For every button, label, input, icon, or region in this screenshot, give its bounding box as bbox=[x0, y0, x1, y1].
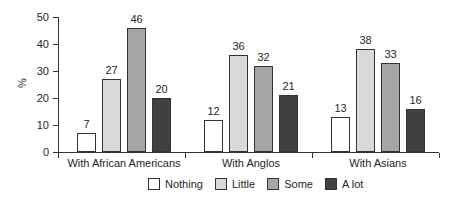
bar-value-label: 13 bbox=[325, 102, 356, 115]
bar-value-label: 32 bbox=[248, 51, 279, 64]
bar-chart: % 01020304050 72746201236322113383316 Wi… bbox=[0, 0, 462, 207]
bar bbox=[279, 95, 298, 152]
bar-value-label: 7 bbox=[71, 118, 102, 131]
y-tick-mark bbox=[53, 98, 58, 99]
legend-label: Nothing bbox=[165, 178, 203, 190]
bar-value-label: 12 bbox=[198, 105, 229, 118]
x-axis-line bbox=[58, 152, 439, 153]
y-tick-mark bbox=[53, 44, 58, 45]
legend-swatch bbox=[215, 178, 227, 190]
y-tick-mark bbox=[53, 17, 58, 18]
y-tick-label: 50 bbox=[20, 10, 49, 24]
y-tick-mark bbox=[53, 71, 58, 72]
bar-value-label: 46 bbox=[121, 13, 152, 26]
bar-value-label: 21 bbox=[273, 80, 304, 93]
bar-value-label: 16 bbox=[400, 94, 431, 107]
legend-label: Little bbox=[232, 178, 255, 190]
bar-value-label: 33 bbox=[375, 48, 406, 61]
bar bbox=[204, 120, 223, 152]
legend-label: A lot bbox=[342, 178, 363, 190]
bar bbox=[77, 133, 96, 152]
bar bbox=[406, 109, 425, 152]
legend-swatch bbox=[267, 178, 279, 190]
bar bbox=[127, 28, 146, 152]
legend-swatch bbox=[148, 178, 160, 190]
legend-item: Some bbox=[267, 178, 313, 190]
bar bbox=[381, 63, 400, 152]
bar bbox=[102, 79, 121, 152]
bar bbox=[356, 49, 375, 152]
y-tick-label: 0 bbox=[20, 145, 49, 159]
legend-item: Nothing bbox=[148, 178, 203, 190]
y-axis-line bbox=[58, 17, 59, 152]
legend: NothingLittleSomeA lot bbox=[148, 178, 363, 190]
x-category-label: With Asians bbox=[303, 157, 453, 170]
legend-item: Little bbox=[215, 178, 255, 190]
y-tick-label: 40 bbox=[20, 37, 49, 51]
legend-label: Some bbox=[284, 178, 313, 190]
bar-value-label: 27 bbox=[96, 64, 127, 77]
bar bbox=[331, 117, 350, 152]
y-tick-mark bbox=[53, 125, 58, 126]
bar-value-label: 38 bbox=[350, 34, 381, 47]
bar bbox=[229, 55, 248, 152]
bar-value-label: 20 bbox=[146, 83, 177, 96]
y-tick-label: 10 bbox=[20, 118, 49, 132]
y-tick-label: 30 bbox=[20, 64, 49, 78]
y-tick-label: 20 bbox=[20, 91, 49, 105]
legend-item: A lot bbox=[325, 178, 363, 190]
bar bbox=[152, 98, 171, 152]
bar bbox=[254, 66, 273, 152]
legend-swatch bbox=[325, 178, 337, 190]
